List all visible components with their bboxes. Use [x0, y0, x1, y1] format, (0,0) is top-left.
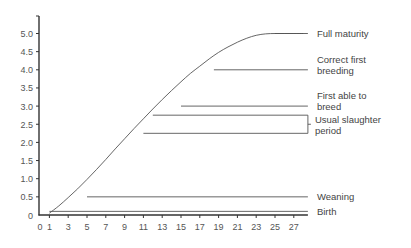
- x-tick-label: 11: [139, 222, 148, 232]
- x-tick-label: 1: [47, 222, 52, 232]
- y-axis: 00.51.01.52.02.53.03.54.04.55.0: [20, 16, 39, 221]
- x-tick-label: 9: [122, 222, 127, 232]
- x-tick-label: 7: [103, 222, 108, 232]
- annotation-label: Usual slaughter: [315, 114, 381, 125]
- x-tick-label: 19: [214, 222, 224, 232]
- annotation-label: Correct first: [317, 54, 366, 65]
- annotation-label: breed: [317, 101, 341, 112]
- annotation-label: Birth: [317, 206, 337, 217]
- y-tick-label: 3.5: [20, 83, 33, 93]
- y-tick-label: 1.0: [20, 174, 33, 184]
- annotation-label: period: [315, 125, 341, 136]
- growth-curve: [49, 33, 303, 213]
- y-tick-label: 0: [28, 211, 33, 221]
- annotation-label: Full maturity: [317, 28, 369, 39]
- x-tick-label: 23: [251, 222, 261, 232]
- x-tick-label: 25: [270, 222, 280, 232]
- y-tick-label: 0.5: [20, 192, 33, 202]
- x-tick-label: 13: [157, 222, 167, 232]
- y-tick-label: 4.5: [20, 47, 33, 57]
- y-tick-label: 2.0: [20, 138, 33, 148]
- y-tick-label: 4.0: [20, 65, 33, 75]
- x-tick-label: 3: [66, 222, 71, 232]
- growth-curve-path: [49, 33, 303, 213]
- x-tick-label: 17: [195, 222, 205, 232]
- x-tick-label: 15: [176, 222, 186, 232]
- y-tick-label: 5.0: [20, 29, 33, 39]
- y-tick-label: 2.5: [20, 120, 33, 130]
- x-axis: 013579111315171921232527: [37, 215, 307, 232]
- annotation-label: First able to: [317, 90, 367, 101]
- x-tick-label: 27: [289, 222, 299, 232]
- x-tick-label: 0: [37, 222, 42, 232]
- x-tick-label: 5: [84, 222, 89, 232]
- y-tick-label: 1.5: [20, 156, 33, 166]
- growth-chart: 00.51.01.52.02.53.03.54.04.55.0 01357911…: [0, 0, 411, 248]
- y-tick-label: 3.0: [20, 102, 33, 112]
- annotation-lines: Full maturityCorrect firstbreedingFirst …: [49, 28, 381, 217]
- x-tick-label: 21: [232, 222, 242, 232]
- annotation-label: breeding: [317, 65, 354, 76]
- annotation-label: Weaning: [317, 191, 354, 202]
